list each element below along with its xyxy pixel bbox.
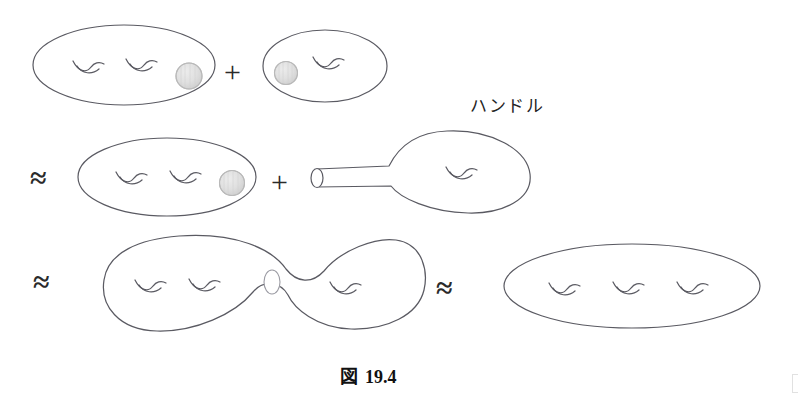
handle-mark (677, 282, 708, 294)
topology-figure-canvas (0, 0, 800, 415)
handle-mark (135, 280, 166, 292)
figure-caption: 図19.4 (340, 362, 397, 388)
handle-mark (446, 167, 477, 179)
caption-number: 19.4 (365, 367, 397, 387)
handle-mark (189, 279, 220, 291)
plus-operator-row1: + (224, 57, 241, 87)
row-3-group (103, 235, 760, 331)
approx-operator-row3-left: ≈ (33, 267, 49, 297)
handle-mark (170, 171, 201, 183)
handle-mark (126, 59, 157, 71)
handle-mark (73, 61, 104, 73)
surface-genus2-with-disk-right (33, 25, 215, 105)
neck-circle (264, 270, 280, 294)
handle-mark (116, 172, 147, 184)
handle-annotation-label: ハンドル (470, 92, 544, 117)
surface-genus3-ellipse (504, 244, 760, 328)
caption-symbol: 図 (340, 367, 358, 387)
surface-genus1-with-disk-left (263, 30, 387, 102)
handle-mark (330, 282, 361, 294)
approx-operator-row2: ≈ (30, 163, 46, 193)
approx-operator-row3-right: ≈ (436, 273, 452, 303)
surface-genus1-with-tube-handle (311, 131, 530, 213)
row-1-group (33, 25, 387, 105)
tube-mouth (311, 169, 323, 188)
page-edge-artifact (792, 374, 798, 393)
handle-mark (313, 57, 344, 69)
surface-dumbbell-connected-sum (103, 235, 425, 331)
handle-mark (613, 282, 644, 294)
row-2-group (78, 131, 530, 216)
plus-operator-row2: + (271, 167, 288, 197)
handle-mark (549, 283, 580, 295)
surface-genus2-with-disk-right (78, 138, 256, 216)
